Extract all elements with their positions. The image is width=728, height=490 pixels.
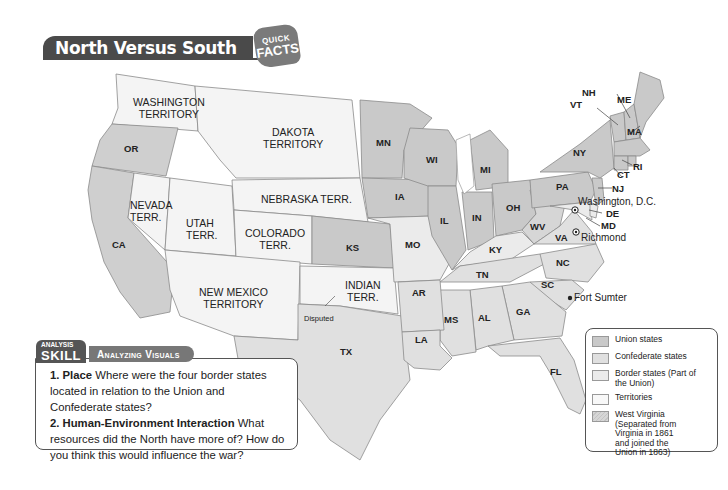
connecticut [614, 156, 628, 170]
label-new-mexico-territory: NEW MEXICOTERRITORY [199, 287, 268, 310]
legend-label: West Virginia (Separated from Virginia i… [615, 410, 687, 458]
label-ia: IA [395, 192, 405, 202]
legend-label: Confederate states [615, 352, 687, 362]
legend-item-west-virginia: West Virginia (Separated from Virginia i… [592, 410, 711, 458]
analysis-skill-box: 1. Place Where were the four border stat… [35, 358, 298, 450]
label-washington-dc: Washington, D.C. [578, 196, 656, 207]
skill-label: SKILL [41, 349, 81, 362]
label-me: ME [617, 95, 631, 105]
label-al: AL [478, 313, 491, 323]
label-ks: KS [346, 243, 359, 253]
north-carolina [540, 244, 604, 282]
label-ga: GA [516, 307, 530, 317]
label-ms: MS [444, 315, 458, 325]
label-oh: OH [506, 203, 520, 213]
analysis-skill-tag: ANALYSIS SKILL [36, 340, 86, 363]
label-ct: CT [617, 170, 630, 180]
label-wv: WV [530, 222, 545, 232]
label-wi: WI [426, 155, 438, 165]
michigan [470, 130, 508, 190]
label-nebraska-territory: NEBRASKA TERR. [261, 194, 352, 206]
confederate-swatch [592, 353, 609, 364]
label-or: OR [124, 144, 138, 154]
border-swatch [592, 370, 609, 381]
legend-item-territories: Territories [592, 393, 711, 405]
legend-item-confederate: Confederate states [592, 352, 711, 364]
label-vt: VT [570, 100, 582, 110]
label-nj: NJ [612, 184, 624, 194]
label-nc: NC [556, 258, 570, 268]
legend-label: Union states [615, 335, 662, 345]
label-mn: MN [376, 138, 391, 148]
label-fl: FL [550, 367, 562, 377]
label-dakota-territory: DAKOTATERRITORY [263, 127, 323, 150]
legend-item-border: Border states (Part of the Union) [592, 369, 711, 388]
label-tn: TN [476, 270, 489, 280]
label-il: IL [440, 216, 448, 226]
label-nevada-territory: NEVADATERR. [130, 200, 172, 223]
label-fort-sumter: Fort Sumter [574, 292, 627, 303]
label-ar: AR [412, 288, 426, 298]
label-pa: PA [556, 182, 569, 192]
vermont [610, 112, 626, 142]
label-ny: NY [573, 148, 586, 158]
map-legend: Union states Confederate states Border s… [585, 328, 718, 452]
label-utah-territory: UTAHTERR. [186, 218, 218, 241]
territory-swatch [592, 394, 609, 405]
label-md: MD [601, 221, 616, 231]
florida [488, 338, 586, 414]
label-in: IN [472, 213, 482, 223]
label-washington-territory: WASHINGTONTERRITORY [133, 97, 205, 120]
label-ky: KY [489, 245, 502, 255]
label-richmond: Richmond [581, 232, 626, 243]
label-colorado-territory: COLORADOTERR. [245, 228, 305, 251]
legend-label: Border states (Part of the Union) [615, 369, 705, 388]
west-virginia-swatch [592, 411, 609, 422]
quick-facts-badge: QUICK FACTS [252, 23, 301, 69]
union-swatch [592, 336, 609, 347]
label-la: LA [415, 335, 428, 345]
title-bar: North Versus South [43, 36, 253, 60]
label-mo: MO [405, 240, 420, 250]
page-title: North Versus South [55, 38, 237, 58]
label-tx: TX [340, 347, 352, 357]
label-de: DE [606, 209, 619, 219]
label-va: VA [555, 233, 568, 243]
label-sc: SC [541, 280, 554, 290]
analysis-skill-header: ANALYSIS SKILL Analyzing Visuals [36, 340, 194, 363]
label-nh: NH [582, 88, 596, 98]
legend-label: Territories [615, 393, 652, 403]
analyzing-visuals-label: Analyzing Visuals [89, 346, 194, 362]
label-ri: RI [633, 162, 643, 172]
label-disputed: Disputed [304, 315, 334, 323]
label-indian-territory: INDIANTERR. [345, 280, 381, 303]
question-1: 1. Place Where were the four border stat… [50, 367, 289, 415]
legend-item-union: Union states [592, 335, 711, 347]
label-mi: MI [480, 165, 491, 175]
label-ma: MA [627, 127, 642, 137]
question-1-label: 1. Place [50, 369, 92, 381]
question-2-label: 2. Human-Environment Interaction [50, 417, 235, 429]
question-2: 2. Human-Environment Interaction What re… [50, 415, 289, 463]
label-ca: CA [112, 240, 126, 250]
